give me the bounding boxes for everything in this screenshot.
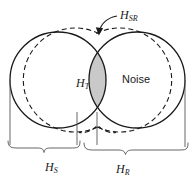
brace-HR-path <box>84 143 188 155</box>
label-HSR-base: H <box>120 8 129 22</box>
label-HT-base: H <box>76 76 85 90</box>
label-HSR-sub: SR <box>129 14 138 23</box>
label-HT-sub: T <box>85 82 90 91</box>
venn-diagram-graphic <box>0 0 196 180</box>
hsr-pointer-arrow <box>96 16 117 36</box>
hsr-arrow-head <box>96 27 103 35</box>
figure-root: HSR HT Noise HS HR <box>0 0 196 180</box>
label-HS-base: H <box>45 160 54 174</box>
brace-HS-path <box>8 141 80 153</box>
label-HR-base: H <box>116 162 125 176</box>
label-noise: Noise <box>122 74 150 85</box>
label-HS: HS <box>45 158 58 175</box>
label-HS-sub: S <box>54 166 58 175</box>
label-HR: HR <box>116 160 130 177</box>
label-HT: HT <box>76 74 89 91</box>
label-HSR: HSR <box>120 6 138 23</box>
label-HR-sub: R <box>125 168 130 177</box>
brace-HR <box>84 143 188 155</box>
brace-HS <box>8 141 80 153</box>
